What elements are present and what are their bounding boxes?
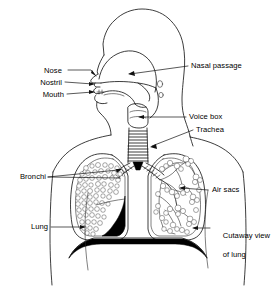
label-cutaway-line2: of lung <box>223 250 246 259</box>
alveolar-clusters <box>154 156 203 234</box>
leader-lung <box>51 225 86 229</box>
diaphragm <box>69 238 207 258</box>
label-nose: Nose <box>18 66 62 75</box>
tracheal-rings <box>128 131 148 161</box>
label-mouth: Mouth <box>8 90 64 99</box>
label-air-sacs: Air sacs <box>212 185 239 194</box>
label-cutaway-view: Cutaway view of lung <box>214 222 270 268</box>
label-cutaway-line1: Cutaway view <box>223 231 270 240</box>
leader-nose <box>68 70 96 76</box>
respiratory-system-diagram: Nose Nostril Mouth Nasal passage Voice b… <box>0 0 272 290</box>
label-lung: Lung <box>14 222 48 231</box>
label-nasal-passage: Nasal passage <box>191 61 242 70</box>
leader-mouth <box>67 90 95 94</box>
leader-nasal-passage <box>128 66 188 76</box>
leader-nostril <box>65 82 95 86</box>
label-nostril: Nostril <box>6 78 62 87</box>
nasal-cavity <box>99 51 163 118</box>
label-voice-box: Voice box <box>189 112 222 121</box>
leader-trachea <box>150 130 193 149</box>
leader-air-sacs <box>179 186 208 190</box>
leader-voice-box <box>138 115 186 119</box>
label-trachea: Trachea <box>196 125 224 134</box>
trachea <box>128 104 148 163</box>
label-bronchi: Bronchi <box>4 172 46 181</box>
